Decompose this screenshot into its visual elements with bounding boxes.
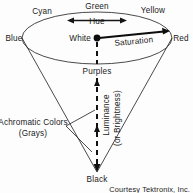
luminance-axis — [94, 42, 101, 172]
credit-text: Courtesy Tektronix, Inc. — [109, 185, 190, 193]
label-blue: Blue — [6, 34, 23, 43]
hue-arrow-head-left — [67, 17, 74, 23]
achromatic-leader-line — [66, 110, 95, 126]
white-center-dot — [94, 35, 101, 42]
luminance-arrow-up-lower — [94, 125, 100, 132]
label-achromatic-grays: (Grays) — [19, 129, 47, 138]
achromatic-leader — [66, 110, 95, 152]
label-green: Green — [85, 2, 109, 11]
label-black: Black — [87, 175, 109, 184]
label-luminance: Luminance — [102, 94, 111, 136]
label-red: Red — [173, 34, 189, 43]
label-white: White — [69, 34, 91, 43]
label-hue: Hue — [89, 17, 105, 26]
hue-arrow-head-right — [120, 17, 127, 23]
cone-side-left — [22, 38, 97, 172]
label-yellow: Yellow — [141, 6, 165, 15]
color-cone-diagram: Green Yellow Cyan Blue Red White Hue Sat… — [0, 0, 193, 193]
label-cyan: Cyan — [32, 7, 52, 16]
luminance-arrow-up-upper — [94, 79, 100, 86]
label-achromatic-colors: Achromatic Colors — [0, 118, 68, 127]
label-saturation: Saturation — [114, 35, 154, 48]
achromatic-leader-line-2 — [66, 126, 92, 152]
label-luminance-alt: (or Brightness) — [113, 90, 122, 146]
saturation-arrow-head — [162, 28, 170, 35]
label-purples: Purples — [83, 67, 112, 76]
